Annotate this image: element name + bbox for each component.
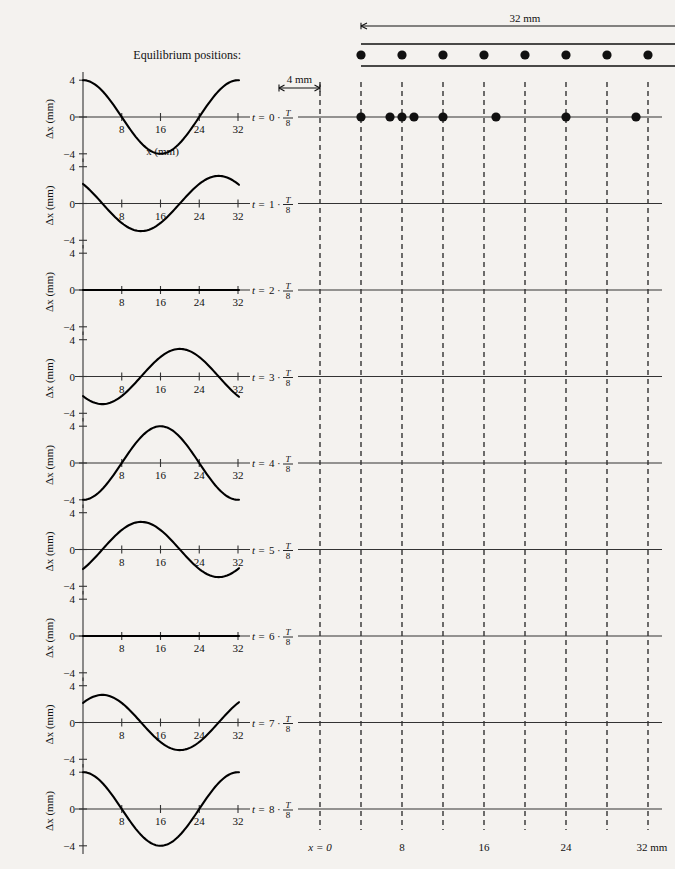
- plot-y-ticklabel-0: 0: [70, 544, 76, 556]
- time-label-index: 1: [269, 198, 275, 210]
- time-label-dot: ·: [277, 544, 281, 556]
- time-label-prefix: t =: [252, 111, 265, 123]
- time-label-index: 4: [269, 457, 275, 469]
- time-label-prefix: t =: [252, 803, 265, 815]
- plot-y-ticklabel-neg4: −4: [63, 667, 75, 679]
- plot-x-ticklabel: 8: [119, 729, 125, 741]
- plot-y-ticklabel-neg4: −4: [63, 494, 75, 506]
- bottom-unit-label: 32 mm: [637, 841, 668, 853]
- time-label-eight: 8: [286, 551, 291, 561]
- time-label-dot: ·: [277, 717, 281, 729]
- displacement-plot-8: [75, 764, 250, 854]
- plot-x-ticklabel: 24: [194, 210, 206, 222]
- plot-x-ticklabel: 8: [119, 296, 125, 308]
- bottom-origin-label: x = 0: [307, 841, 332, 853]
- plot-y-ticklabel-4: 4: [70, 593, 76, 605]
- equilibrium-dot: [356, 50, 365, 59]
- time-label-index: 3: [269, 371, 275, 383]
- plot-y-ticklabel-0: 0: [70, 198, 76, 210]
- time-label-dot: ·: [277, 457, 281, 469]
- plot-x-ticklabel: 16: [155, 296, 167, 308]
- plot-x-ticklabel: 24: [194, 296, 206, 308]
- displacement-plot-2: [75, 245, 250, 335]
- plot-x-ticklabel: 16: [155, 469, 167, 481]
- time-label-index: 8: [269, 803, 275, 815]
- equilibrium-dot: [561, 50, 570, 59]
- plot-y-axis-title: Δx (mm): [43, 272, 56, 312]
- span-label: 32 mm: [510, 12, 541, 24]
- time-label-period: T: [285, 627, 291, 637]
- plot-x-ticklabel: 32: [233, 383, 244, 395]
- time-label-dot: ·: [277, 371, 281, 383]
- time-label-dot: ·: [277, 803, 281, 815]
- time-label-period: T: [285, 800, 291, 810]
- plot-y-ticklabel-0: 0: [70, 457, 76, 469]
- time-label-index: 2: [269, 284, 275, 296]
- plot-x-ticklabel: 24: [194, 123, 206, 135]
- bottom-tick-label: 16: [479, 841, 491, 853]
- plot-y-ticklabel-0: 0: [70, 371, 76, 383]
- time-label-eight: 8: [286, 724, 291, 734]
- plot-y-axis-title: Δx (mm): [43, 445, 56, 485]
- plot-y-ticklabel-0: 0: [70, 111, 76, 123]
- bottom-tick-label: 24: [561, 841, 573, 853]
- time-label-eight: 8: [286, 378, 291, 388]
- plot-x-ticklabel: 24: [194, 469, 206, 481]
- plot-x-ticklabel: 8: [119, 469, 125, 481]
- plot-x-ticklabel: 16: [155, 210, 167, 222]
- plot-x-ticklabel: 8: [119, 815, 125, 827]
- plot-x-ticklabel: 16: [155, 642, 167, 654]
- plot-x-ticklabel: 8: [119, 642, 125, 654]
- plot-y-ticklabel-neg4: −4: [63, 840, 75, 852]
- time-label-eight: 8: [286, 291, 291, 301]
- plot-y-ticklabel-neg4: −4: [63, 148, 75, 160]
- plot-y-axis-title: Δx (mm): [43, 185, 56, 225]
- figure-canvas: 40−48162432Δx (mm)40−48162432Δx (mm)40−4…: [0, 0, 675, 869]
- time-label-eight: 8: [286, 118, 291, 128]
- longitudinal-wave-figure: 40−48162432Δx (mm)40−48162432Δx (mm)40−4…: [0, 0, 675, 869]
- plot-y-ticklabel-4: 4: [70, 74, 76, 86]
- plot-x-ticklabel: 8: [119, 123, 125, 135]
- particle-dot: [561, 112, 570, 121]
- plot-y-ticklabel-0: 0: [70, 717, 76, 729]
- equilibrium-dot: [479, 50, 488, 59]
- particle-dot: [631, 112, 640, 121]
- plot-y-ticklabel-0: 0: [70, 630, 76, 642]
- equilibrium-dot: [602, 50, 611, 59]
- plot-y-ticklabel-neg4: −4: [63, 753, 75, 765]
- plot-x-ticklabel: 32: [233, 210, 244, 222]
- plot-y-ticklabel-4: 4: [70, 766, 76, 778]
- particle-dot: [385, 112, 394, 121]
- time-label-prefix: t =: [252, 371, 265, 383]
- time-label-prefix: t =: [252, 198, 265, 210]
- plot-y-ticklabel-4: 4: [70, 334, 76, 346]
- plot-x-ticklabel: 16: [155, 383, 167, 395]
- equilibrium-dot: [643, 50, 652, 59]
- plot-x-ticklabel: 24: [194, 556, 206, 568]
- time-label-eight: 8: [286, 810, 291, 820]
- plot-y-axis-title: Δx (mm): [43, 358, 56, 398]
- particle-dot: [356, 112, 365, 121]
- time-label-period: T: [285, 368, 291, 378]
- plot-y-axis-title: Δx (mm): [43, 99, 56, 139]
- time-label-eight: 8: [286, 205, 291, 215]
- plot-y-ticklabel-4: 4: [70, 161, 76, 173]
- plot-y-axis-title: Δx (mm): [43, 791, 56, 831]
- displacement-plot-7: [75, 677, 250, 767]
- plot-y-ticklabel-neg4: −4: [63, 407, 75, 419]
- plot-x-ticklabel: 8: [119, 556, 125, 568]
- plot-x-ticklabel: 32: [233, 729, 244, 741]
- time-label-prefix: t =: [252, 284, 265, 296]
- time-label-index: 0: [269, 111, 275, 123]
- plot-x-ticklabel: 16: [155, 729, 167, 741]
- plot-x-ticklabel: 8: [119, 383, 125, 395]
- plot-x-ticklabel: 32: [233, 815, 244, 827]
- particle-dot: [397, 112, 406, 121]
- time-label-dot: ·: [277, 284, 281, 296]
- time-label-prefix: t =: [252, 717, 265, 729]
- plot-x-ticklabel: 24: [194, 815, 206, 827]
- equilibrium-positions-label: Equilibrium positions:: [133, 48, 241, 62]
- plot-x-ticklabel: 32: [233, 556, 244, 568]
- bottom-tick-label: 8: [399, 841, 405, 853]
- equilibrium-dot: [438, 50, 447, 59]
